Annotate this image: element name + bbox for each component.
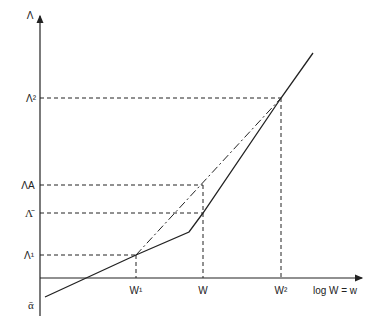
economic-diagram: Λ Λ² ΛA Λ̄ Λ¹ ᾱ W¹ W W² log W = w bbox=[0, 0, 382, 328]
tick-w2: W² bbox=[275, 285, 288, 296]
tick-alpha-bar: ᾱ bbox=[28, 299, 34, 311]
tick-lambda2: Λ² bbox=[26, 93, 37, 104]
tick-lambdaA: ΛA bbox=[21, 180, 35, 191]
tick-w1: W¹ bbox=[130, 285, 143, 296]
solid-piecewise-curve bbox=[45, 53, 313, 297]
x-axis-label: log W = w bbox=[313, 285, 358, 296]
y-axis-label: Λ bbox=[27, 10, 34, 21]
vertical-guides bbox=[136, 98, 281, 278]
horizontal-guides bbox=[40, 98, 281, 255]
dash-dot-chord bbox=[136, 98, 281, 255]
tick-w: W bbox=[198, 285, 208, 296]
tick-lambda-bar: Λ̄ bbox=[25, 207, 35, 219]
tick-lambda1: Λ¹ bbox=[24, 250, 35, 261]
